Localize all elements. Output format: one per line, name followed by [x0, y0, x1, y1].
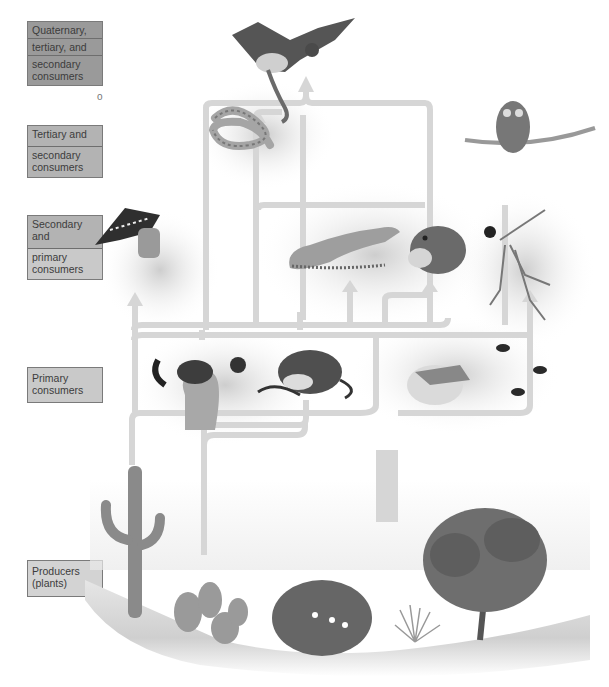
mesquite-tree: [423, 508, 547, 640]
owl-illustration: [465, 101, 595, 153]
flowering-shrub: [272, 580, 372, 656]
grass-clump: [395, 605, 440, 642]
food-web-illustration: [0, 0, 609, 687]
